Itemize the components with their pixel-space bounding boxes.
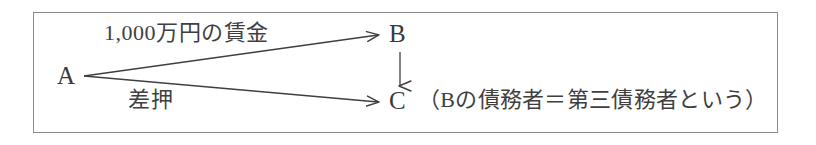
node-label-c: C [389,88,406,113]
node-label-a: A [57,63,75,88]
diagram-canvas: A B C 1,000万円の賃金 差押 （Bの債務者＝第三債務者という） [0,0,816,145]
node-label-b: B [389,21,406,46]
third-party-debtor-note: （Bの債務者＝第三債務者という） [418,89,767,111]
edge-label-seizure: 差押 [128,89,173,111]
edge-label-loan-amount: 1,000万円の賃金 [104,22,269,44]
